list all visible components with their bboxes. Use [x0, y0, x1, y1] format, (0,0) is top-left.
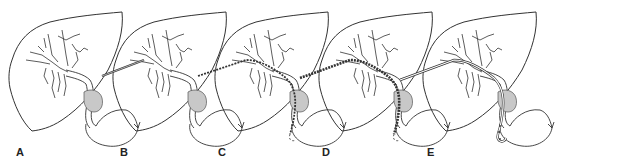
panel-label: B — [120, 146, 128, 158]
panel-label: D — [322, 146, 330, 158]
liver-drain-illustration — [414, 0, 542, 159]
panel-label: E — [427, 146, 434, 158]
panel-label: C — [218, 146, 226, 158]
drainage-catheter — [400, 60, 506, 141]
panel-e: E — [414, 0, 542, 159]
catheter — [300, 60, 399, 134]
panel-label: A — [16, 146, 24, 158]
guidewire — [198, 60, 295, 134]
